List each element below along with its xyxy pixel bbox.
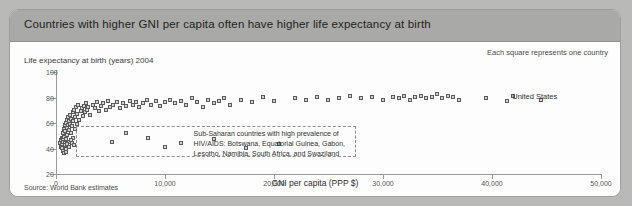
source-note: Source: World Bank estimates: [24, 184, 118, 191]
data-point: [69, 131, 73, 135]
data-point: [440, 96, 444, 100]
data-point: [145, 98, 149, 102]
data-point: [397, 96, 401, 100]
data-point: [64, 150, 68, 154]
annotation-line: Lesotho, Namibia, South Africa, and Swaz…: [194, 149, 345, 159]
data-point: [173, 101, 177, 105]
y-axis-title: Life expectancy at birth (years) 2004: [24, 56, 153, 65]
data-point: [81, 114, 85, 118]
data-point: [149, 103, 153, 107]
data-point: [195, 100, 199, 104]
annotation-line: Sub-Saharan countries with high prevalen…: [194, 129, 345, 139]
data-point: [435, 92, 439, 96]
x-tick-mark: [492, 174, 493, 179]
x-tick-mark: [383, 174, 384, 179]
x-tick-mark: [56, 174, 57, 179]
legend-note: Each square represents one country: [487, 48, 608, 57]
data-point: [413, 95, 417, 99]
data-point: [315, 95, 319, 99]
data-point: [77, 118, 81, 122]
annotation-text: Sub-Saharan countries with high prevalen…: [194, 129, 345, 159]
chart-panel: Life expectancy at birth (years) 2004 Ea…: [10, 42, 620, 197]
data-point: [348, 94, 352, 98]
data-point: [228, 103, 232, 107]
data-point: [457, 98, 461, 102]
data-point: [261, 95, 265, 99]
data-point: [217, 99, 221, 103]
data-point: [118, 106, 122, 110]
data-point: [222, 96, 226, 100]
data-point: [158, 104, 162, 108]
annotation-line: HIV/AIDS: Botswana, Equatorial Guinea, G…: [194, 139, 345, 149]
data-point: [97, 109, 101, 113]
data-point: [419, 94, 423, 98]
data-point: [359, 96, 363, 100]
x-tick-label: 10,000: [154, 180, 175, 187]
data-point: [137, 105, 141, 109]
data-point: [115, 100, 119, 104]
data-point: [430, 95, 434, 99]
data-point: [124, 104, 128, 108]
data-point: [391, 95, 395, 99]
data-point: [206, 98, 210, 102]
data-point: [304, 98, 308, 102]
data-point: [179, 99, 183, 103]
x-axis-line: [56, 174, 602, 175]
figure-header-bar: Countries with higher GNI per capita oft…: [10, 10, 620, 42]
x-tick-mark: [165, 174, 166, 179]
data-point: [250, 100, 254, 104]
x-tick-mark: [274, 174, 275, 179]
data-point: [408, 98, 412, 102]
data-point: [293, 96, 297, 100]
data-point: [154, 99, 158, 103]
data-point: [212, 101, 216, 105]
x-tick-label: 50,000: [590, 180, 611, 187]
data-point: [446, 94, 450, 98]
data-point: [337, 96, 341, 100]
data-point: [106, 99, 110, 103]
data-point: [88, 113, 92, 117]
data-point: [163, 100, 167, 104]
data-point: [141, 101, 145, 105]
united-states-label: United States: [512, 92, 557, 101]
data-point: [67, 145, 71, 149]
data-point: [201, 105, 205, 109]
x-tick-label: 20,000: [263, 180, 284, 187]
data-point: [134, 100, 138, 104]
data-point: [402, 94, 406, 98]
x-tick-mark: [601, 174, 602, 179]
data-point: [190, 96, 194, 100]
x-tick-label: 0: [54, 180, 58, 187]
data-point: [168, 98, 172, 102]
data-point: [239, 98, 243, 102]
data-point: [272, 99, 276, 103]
x-tick-label: 30,000: [372, 180, 393, 187]
data-point: [326, 98, 330, 102]
data-point-united-states: [505, 99, 509, 103]
figure-card: Countries with higher GNI per capita oft…: [9, 9, 621, 197]
x-tick-label: 40,000: [481, 180, 502, 187]
data-point: [484, 96, 488, 100]
data-point: [184, 103, 188, 107]
figure-title: Countries with higher GNI per capita oft…: [24, 18, 431, 30]
data-point: [370, 95, 374, 99]
data-point: [451, 95, 455, 99]
data-point: [381, 98, 385, 102]
data-point: [424, 96, 428, 100]
